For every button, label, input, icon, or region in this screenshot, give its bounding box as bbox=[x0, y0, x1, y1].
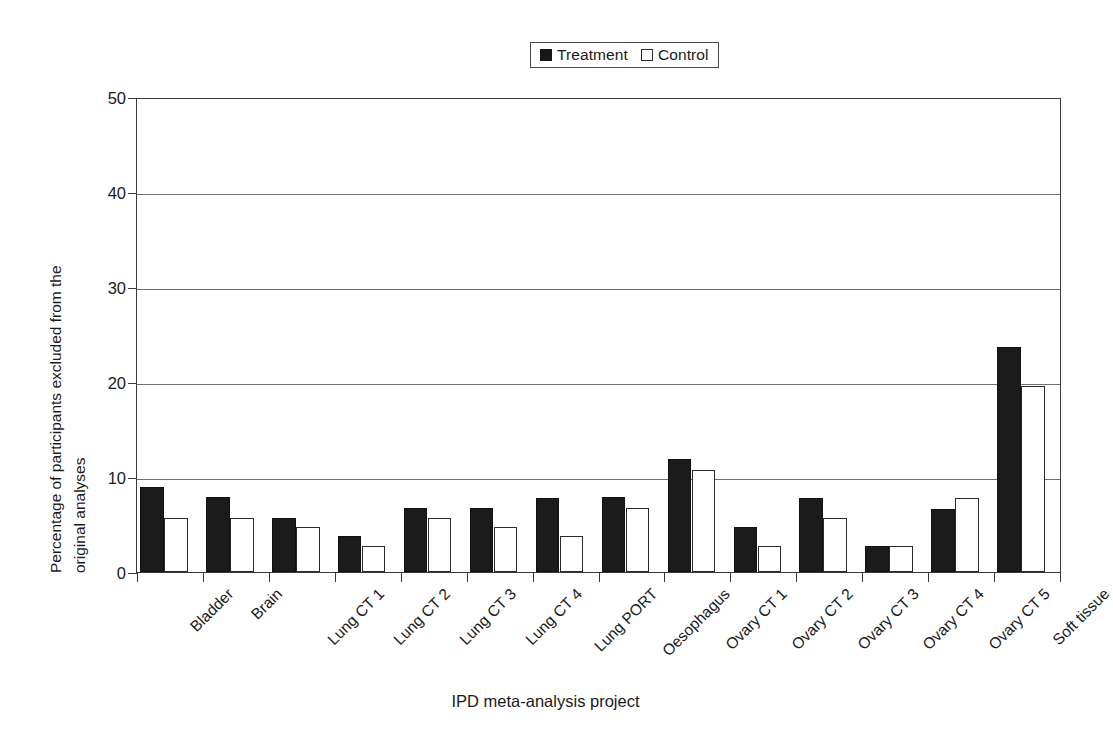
legend-entry-control: Control bbox=[641, 46, 709, 64]
bar-group bbox=[730, 99, 796, 572]
bar-group bbox=[796, 99, 862, 572]
bar-group bbox=[664, 99, 730, 572]
x-axis-category-label-text: Ovary CT 3 bbox=[854, 585, 923, 654]
y-axis-tick-mark bbox=[128, 288, 137, 289]
x-axis-category-label: Bladder bbox=[187, 585, 238, 636]
x-axis-category-label: Lung CT 2 bbox=[390, 585, 454, 649]
y-axis-tick-label: 40 bbox=[84, 184, 126, 203]
legend-label-treatment: Treatment bbox=[557, 46, 628, 64]
x-axis-category-label: Ovary CT 4 bbox=[920, 585, 989, 654]
bar-treatment bbox=[865, 546, 889, 572]
bar-control bbox=[230, 518, 254, 572]
bar-treatment bbox=[338, 536, 362, 572]
bar-control bbox=[889, 546, 913, 572]
legend-entry-treatment: Treatment bbox=[540, 46, 628, 64]
bar-treatment bbox=[536, 498, 560, 572]
bar-group bbox=[137, 99, 203, 572]
bar-control bbox=[1021, 386, 1045, 572]
bar-control bbox=[626, 508, 650, 572]
bar-control bbox=[758, 546, 782, 572]
bar-treatment bbox=[734, 527, 758, 572]
bar-treatment bbox=[668, 459, 692, 572]
x-axis-category-label-text: Ovary CT 4 bbox=[920, 585, 989, 654]
x-axis-category-label-text: Brain bbox=[248, 585, 286, 623]
y-axis-tick-mark bbox=[128, 383, 137, 384]
x-axis-category-label-text: Lung CT 4 bbox=[522, 585, 586, 649]
y-axis-tick-labels: 01020304050 bbox=[78, 98, 126, 573]
bar-group bbox=[862, 99, 928, 572]
bar-treatment bbox=[470, 508, 494, 572]
bar-control bbox=[955, 498, 979, 572]
x-axis-title: IPD meta-analysis project bbox=[0, 692, 1091, 711]
x-axis-category-label: Ovary CT 3 bbox=[854, 585, 923, 654]
bar-treatment bbox=[272, 518, 296, 572]
chart-legend: Treatment Control bbox=[530, 42, 719, 68]
bar-group bbox=[335, 99, 401, 572]
x-axis-category-label: Soft tissue bbox=[1050, 585, 1113, 649]
bar-treatment bbox=[931, 509, 955, 572]
y-axis-tick-mark bbox=[128, 193, 137, 194]
bar-group bbox=[599, 99, 665, 572]
bar-control bbox=[296, 527, 320, 572]
x-axis-category-label: Brain bbox=[248, 585, 286, 623]
bar-treatment bbox=[404, 508, 428, 572]
x-axis-category-label-text: Soft tissue bbox=[1050, 585, 1113, 649]
filled-square-icon bbox=[540, 49, 552, 61]
y-axis-tick-mark bbox=[128, 98, 137, 99]
x-axis-category-label: Lung CT 1 bbox=[324, 585, 388, 649]
x-axis-category-label-text: Lung CT 2 bbox=[390, 585, 454, 649]
bar-control bbox=[823, 518, 847, 572]
x-axis-category-label: Oesophagus bbox=[659, 585, 734, 660]
bar-treatment bbox=[206, 497, 230, 572]
bar-treatment bbox=[602, 497, 626, 572]
bar-control bbox=[494, 527, 518, 572]
x-axis-category-label-text: Lung PORT bbox=[591, 585, 661, 655]
bars-layer bbox=[137, 99, 1060, 572]
bar-group bbox=[533, 99, 599, 572]
y-axis-tick-label: 50 bbox=[84, 89, 126, 108]
bar-group bbox=[928, 99, 994, 572]
y-axis-tick-label: 30 bbox=[84, 279, 126, 298]
x-axis-category-labels: BladderBrainLung CT 1Lung CT 2Lung CT 3L… bbox=[0, 573, 1091, 683]
bar-control bbox=[362, 546, 386, 572]
x-axis-category-label: Lung CT 3 bbox=[456, 585, 520, 649]
bar-control bbox=[560, 536, 584, 572]
bar-control bbox=[692, 470, 716, 572]
x-axis-category-label: Ovary CT 2 bbox=[788, 585, 857, 654]
x-axis-category-label: Ovary CT 5 bbox=[986, 585, 1055, 654]
x-axis-category-label-text: Lung CT 3 bbox=[456, 585, 520, 649]
x-axis-category-label: Lung PORT bbox=[591, 585, 661, 655]
bar-treatment bbox=[799, 498, 823, 572]
bar-group bbox=[401, 99, 467, 572]
bar-control bbox=[164, 518, 188, 572]
x-axis-category-label-text: Oesophagus bbox=[659, 585, 734, 660]
x-axis-category-label-text: Ovary CT 5 bbox=[986, 585, 1055, 654]
y-axis-title-container: Percentage of participants excluded from… bbox=[0, 85, 60, 577]
x-axis-category-label-text: Bladder bbox=[187, 585, 238, 636]
x-axis-category-label-text: Ovary CT 2 bbox=[788, 585, 857, 654]
bar-group bbox=[994, 99, 1060, 572]
bar-group bbox=[203, 99, 269, 572]
legend-label-control: Control bbox=[658, 46, 709, 64]
bar-group bbox=[269, 99, 335, 572]
x-axis-category-label: Lung CT 4 bbox=[522, 585, 586, 649]
bar-treatment bbox=[997, 347, 1021, 572]
open-square-icon bbox=[641, 49, 653, 61]
y-axis-tick-mark bbox=[128, 478, 137, 479]
x-axis-category-label-text: Lung CT 1 bbox=[324, 585, 388, 649]
y-axis-tick-label: 10 bbox=[84, 469, 126, 488]
bar-group bbox=[467, 99, 533, 572]
y-axis-tick-mark bbox=[128, 573, 137, 574]
y-axis-tick-label: 20 bbox=[84, 374, 126, 393]
bar-treatment bbox=[140, 487, 164, 572]
bar-control bbox=[428, 518, 452, 572]
